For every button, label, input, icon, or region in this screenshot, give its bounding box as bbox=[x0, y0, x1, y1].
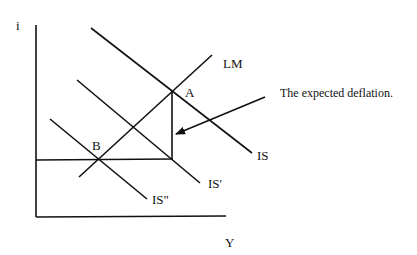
y-axis-label: i bbox=[16, 18, 20, 33]
annotation-text: The expected deflation. bbox=[280, 86, 393, 100]
x-axis-label: Y bbox=[225, 235, 235, 250]
is-label: IS bbox=[257, 148, 269, 163]
lm-label: LM bbox=[223, 56, 243, 71]
point-a-label: A bbox=[185, 85, 195, 100]
x-axis bbox=[36, 216, 226, 217]
horizontal-rate-line bbox=[36, 159, 173, 160]
is-lm-diagram: i Y LM IS IS' IS" A B The expected defla… bbox=[0, 0, 417, 255]
is-prime-label: IS' bbox=[208, 176, 222, 191]
is-double-prime-label: IS" bbox=[152, 192, 169, 207]
point-b-label: B bbox=[92, 138, 101, 153]
